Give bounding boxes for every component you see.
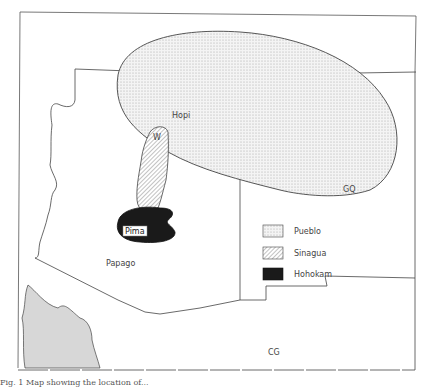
baja-region: [22, 285, 100, 368]
map-figure: Hopi W GQ Pima Papago CG Pueblo Sinagua …: [0, 0, 432, 387]
label-gq: GQ: [343, 185, 356, 194]
label-w: W: [153, 133, 161, 142]
legend: Pueblo Sinagua Hohokam: [263, 225, 332, 280]
figure-caption: Fig. 1 Map showing the location of...: [0, 378, 149, 387]
legend-label-pueblo: Pueblo: [294, 227, 321, 236]
label-papago: Papago: [106, 259, 135, 268]
legend-label-hohokam: Hohokam: [294, 270, 332, 279]
label-hopi: Hopi: [172, 111, 190, 120]
legend-swatch-hohokam: [263, 268, 283, 280]
legend-swatch-sinagua: [263, 247, 283, 259]
label-cg: CG: [268, 348, 280, 357]
hohokam-region: [117, 207, 175, 242]
legend-swatch-pueblo: [263, 225, 283, 237]
legend-label-sinagua: Sinagua: [294, 249, 326, 258]
label-pima: Pima: [125, 227, 145, 236]
